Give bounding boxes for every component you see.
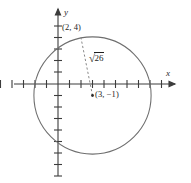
x-axis-arrowhead [169,81,175,86]
y-axis-group [55,9,60,176]
center-point-marker [91,94,94,97]
point-on-circle-label: (2, 4) [62,22,81,32]
radical-expression: √26 [89,52,104,64]
center-point-label: (3, −1) [95,89,119,99]
circle-graph-figure: x y (2, 4) (3, −1) √26 [0,0,191,183]
radius-segment [81,38,93,96]
y-axis-label: y [63,7,68,17]
y-axis-arrowhead [55,9,60,15]
radius-length-label: √26 [89,52,104,64]
x-axis-group [14,81,175,86]
x-axis-label: x [165,68,170,78]
radicand-value: 26 [94,52,104,63]
